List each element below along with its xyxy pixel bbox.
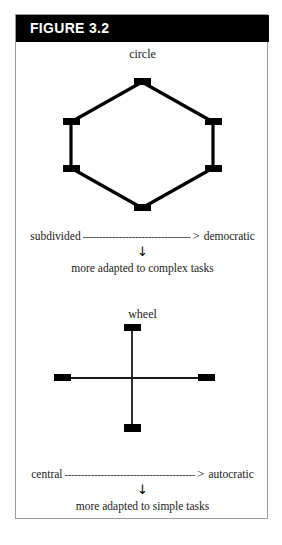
hex-node-upper-left	[63, 118, 80, 125]
wheel-axis-dashes: ----------------------------------------	[63, 468, 198, 480]
circle-axis-right-term: democratic	[204, 230, 255, 242]
hex-node-group	[63, 78, 222, 211]
hex-node-top	[134, 78, 151, 85]
figure-frame: FIGURE 3.2 circle	[15, 14, 268, 519]
wheel-node-right	[198, 374, 215, 381]
circle-dimension-axis: subdivided -----------------------------…	[16, 228, 269, 244]
wheel-dimension-axis: central --------------------------------…	[16, 466, 269, 482]
circle-axis-arrowhead: >	[192, 228, 203, 244]
wheel-node-bottom	[124, 424, 141, 432]
hex-edge-bottom-left	[71, 168, 142, 208]
circle-network-diagram	[16, 60, 269, 240]
figure-title-bar: FIGURE 3.2	[16, 15, 269, 42]
wheel-caption: more adapted to simple tasks	[16, 500, 269, 512]
hex-node-lower-left	[63, 165, 80, 172]
hex-node-lower-right	[205, 165, 222, 172]
wheel-node-top	[124, 324, 141, 331]
wheel-down-arrow-icon: ↓	[16, 483, 269, 496]
hex-node-bottom	[134, 204, 151, 211]
wheel-network-diagram	[16, 320, 269, 470]
hex-edge-bottom-right	[142, 168, 213, 208]
circle-axis-dashes: ---------------------------------	[81, 230, 193, 242]
wheel-axis-arrowhead: >	[197, 466, 208, 482]
circle-down-arrow-icon: ↓	[16, 245, 269, 258]
hex-edge-top-right	[142, 82, 213, 122]
wheel-axis-left-term: central	[31, 468, 62, 480]
circle-axis-left-term: subdivided	[30, 230, 80, 242]
circle-caption: more adapted to complex tasks	[16, 262, 269, 274]
figure-body: circle	[16, 42, 269, 519]
wheel-node-left	[54, 374, 71, 381]
hex-edge-top-left	[71, 82, 142, 122]
hex-node-upper-right	[205, 118, 222, 125]
wheel-axis-right-term: autocratic	[208, 468, 253, 480]
figure-title-label: FIGURE 3.2	[30, 20, 109, 37]
